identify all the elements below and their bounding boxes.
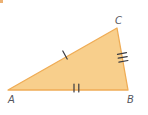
triangle-shape (8, 28, 128, 90)
vertex-label-b: B (127, 94, 134, 105)
vertex-label-c: C (115, 15, 122, 26)
triangle-figure: A B C (0, 0, 148, 115)
vertex-label-a: A (7, 94, 15, 105)
figure-canvas: A B C (0, 0, 148, 115)
